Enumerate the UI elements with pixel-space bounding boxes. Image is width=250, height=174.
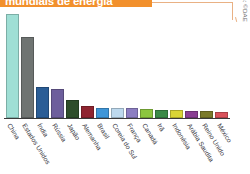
tick-label-slot: Arábia Saudita — [185, 120, 198, 174]
tick-label: Irã — [156, 122, 166, 132]
bar-slot — [126, 14, 139, 118]
decorative-corner-frame — [148, 2, 233, 20]
bar-slot — [111, 14, 124, 118]
chart-title-banner: mundiais de energia — [0, 0, 152, 7]
bar-slot — [170, 14, 183, 118]
bar[interactable] — [200, 111, 213, 118]
bar-slot — [155, 14, 168, 118]
bar-slot — [21, 14, 34, 118]
bar[interactable] — [185, 111, 198, 118]
bar[interactable] — [140, 109, 153, 118]
tick-label-slot: Rússia — [51, 120, 64, 174]
bar-slot — [96, 14, 109, 118]
tick-label-slot: China — [6, 120, 19, 174]
bar-slot — [6, 14, 19, 118]
tick-label-slot: Irã — [155, 120, 168, 174]
tick-label-slot: Coreia do Sul — [111, 120, 124, 174]
tick-label: México — [216, 122, 233, 144]
bar[interactable] — [170, 110, 183, 118]
tick-label-slot: Indonésia — [170, 120, 183, 174]
tick-label: Índia — [36, 122, 50, 138]
bar[interactable] — [21, 37, 34, 118]
bar[interactable] — [96, 108, 109, 118]
tick-label-slot: Reino Unido — [200, 120, 213, 174]
tick-label-slot: México — [215, 120, 228, 174]
chart-credit: Gráficos: ©DAE — [242, 0, 249, 22]
bar-slot — [81, 14, 94, 118]
page-title: mundiais de energia — [5, 0, 112, 7]
bar[interactable] — [111, 108, 124, 118]
tick-label: Brasil — [96, 122, 111, 140]
tick-label-slot: Canadá — [140, 120, 153, 174]
x-axis-tick-labels: ChinaEstados UnidosÍndiaRússiaJapãoAlema… — [6, 120, 228, 174]
bar[interactable] — [81, 106, 94, 118]
bar[interactable] — [66, 100, 79, 118]
bar-series — [6, 14, 228, 118]
bar[interactable] — [6, 14, 19, 118]
tick-label-slot: Brasil — [96, 120, 109, 174]
bar[interactable] — [155, 110, 168, 118]
bar[interactable] — [126, 108, 139, 118]
bar-slot — [66, 14, 79, 118]
bar[interactable] — [51, 89, 64, 118]
bar-slot — [140, 14, 153, 118]
bar-slot — [36, 14, 49, 118]
tick-label: Japão — [66, 122, 82, 141]
tick-label-slot: França — [126, 120, 139, 174]
bar-slot — [200, 14, 213, 118]
bar-slot — [185, 14, 198, 118]
bar[interactable] — [36, 87, 49, 118]
chart-container: mundiais de energia Gráficos: ©DAE China… — [0, 0, 250, 174]
tick-label: China — [7, 122, 22, 141]
tick-label-slot: Índia — [36, 120, 49, 174]
tick-label-slot: Japão — [66, 120, 79, 174]
tick-label-slot: Alemanha — [81, 120, 94, 174]
plot-area — [6, 14, 228, 118]
bar-slot — [51, 14, 64, 118]
bar-slot — [215, 14, 228, 118]
tick-label-slot: Estados Unidos — [21, 120, 34, 174]
